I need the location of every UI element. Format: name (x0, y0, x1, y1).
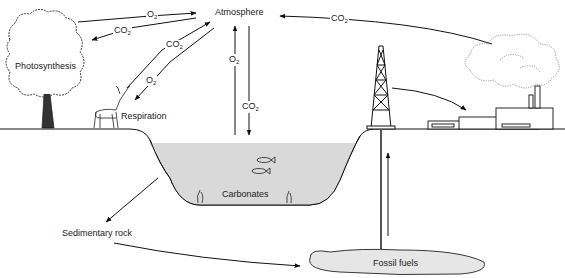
respiration-label: Respiration (121, 112, 167, 121)
flow-label-o2-tree: O2 (146, 10, 158, 20)
oil-derrick-icon (367, 46, 395, 255)
flow-label-text: CO (242, 101, 256, 111)
flow-label-subscript: 2 (180, 44, 183, 50)
arrow-rock-to-fossil-fuels (114, 243, 300, 266)
arrow-deer-to-atmosphere (127, 22, 210, 88)
flow-label-text: CO (331, 13, 345, 23)
arrow-smoke-to-atmosphere (280, 16, 492, 44)
flow-label-text: CO (166, 39, 180, 49)
smoke-cloud-icon (465, 34, 559, 88)
deer-icon (94, 86, 130, 128)
flow-label-co2-deer: CO2 (165, 40, 184, 50)
flow-label-co2-factory: CO2 (330, 14, 349, 24)
sedimentary-rock-label: Sedimentary rock (62, 229, 132, 238)
carbonates-label: Carbonates (222, 190, 269, 199)
arrow-atmosphere-to-tree (92, 18, 196, 40)
carbon-cycle-diagram: Atmosphere Photosynthesis Respiration Ca… (0, 0, 565, 278)
flow-label-subscript: 2 (153, 80, 156, 86)
arrow-carbonates-to-rock (106, 178, 158, 222)
flow-label-subscript: 2 (128, 30, 131, 36)
flow-label-text: CO (114, 25, 128, 35)
fossil-fuels-label: Fossil fuels (373, 259, 418, 268)
flow-label-subscript: 2 (345, 18, 348, 24)
flow-label-subscript: 2 (154, 14, 157, 20)
arrow-derrick-to-factory (392, 88, 466, 110)
factory-icon (428, 86, 553, 129)
atmosphere-label: Atmosphere (215, 8, 264, 17)
flow-label-text: O (146, 75, 153, 85)
flow-label-o2-deer: O2 (145, 76, 157, 86)
flow-label-subscript: 2 (256, 106, 259, 112)
flow-label-text: O (147, 9, 154, 19)
flow-label-o2-water: O2 (229, 54, 239, 66)
flow-arrows (78, 13, 492, 266)
flow-label-co2-tree: CO2 (113, 26, 132, 36)
flow-label-co2-water: CO2 (242, 101, 259, 113)
flow-label-text: O (229, 54, 236, 64)
photosynthesis-label: Photosynthesis (15, 62, 76, 71)
flow-label-subscript: 2 (236, 59, 239, 65)
